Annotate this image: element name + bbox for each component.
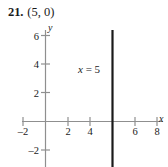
y-axis-label: y: [48, 23, 52, 33]
equation-value: 5: [95, 63, 101, 75]
x-tick-label-8: 8: [154, 126, 159, 137]
figure-container: 21.(5, 0): [0, 0, 168, 167]
x-axis-label: x: [159, 114, 163, 124]
x-tick-label-6: 6: [132, 126, 137, 137]
y-tick-label-neg2: –2: [19, 145, 39, 156]
line-equation-annotation: x = 5: [78, 63, 100, 75]
y-tick-label-6: 6: [25, 30, 39, 41]
x-tick-label-neg2: –2: [18, 126, 29, 137]
coordinate-plane: y x –2 2 4 6 8 6 4 2 –2 x = 5: [0, 0, 168, 167]
equation-equals-sign: =: [83, 63, 95, 75]
y-tick-label-2: 2: [25, 87, 39, 98]
plot-svg: [0, 0, 168, 167]
y-tick-label-4: 4: [25, 59, 39, 70]
x-tick-label-4: 4: [87, 126, 92, 137]
x-tick-label-2: 2: [65, 126, 70, 137]
